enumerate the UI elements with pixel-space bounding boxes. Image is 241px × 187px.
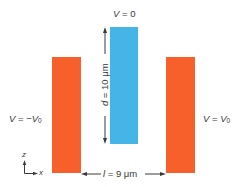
- equals-zero: = 0: [119, 8, 135, 19]
- subscript-zero: 0: [227, 117, 231, 124]
- left-potential-label: V = −V0: [9, 114, 42, 125]
- right-potential-label: V = V0: [203, 114, 230, 125]
- gap-dimension-label: l = 9 μm: [103, 169, 137, 179]
- x-axis-label: x: [39, 169, 43, 177]
- height-symbol: d: [99, 101, 110, 106]
- height-value: = 10 μm: [99, 63, 110, 100]
- dimension-arrows: [0, 0, 241, 187]
- z-axis-label: z: [22, 151, 26, 159]
- height-dimension-label: d = 10 μm: [100, 52, 110, 118]
- z-symbol: z: [22, 150, 26, 159]
- equals: =: [209, 113, 220, 124]
- subscript-zero: 0: [38, 117, 42, 124]
- equals-minus: = −: [15, 113, 31, 124]
- gap-value: = 9 μm: [105, 168, 137, 179]
- center-potential-label: V = 0: [113, 9, 135, 19]
- x-symbol: x: [39, 168, 43, 177]
